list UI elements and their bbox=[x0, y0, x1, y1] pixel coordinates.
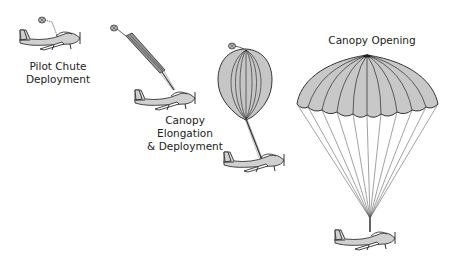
label-canopy-elongation-deployment: Canopy Elongation & Deployment bbox=[140, 114, 230, 153]
stage-pilot-chute bbox=[19, 17, 80, 50]
label-pilot-chute-deployment: Pilot Chute Deployment bbox=[18, 60, 98, 86]
parachute-deployment-diagram: Pilot Chute Deployment Canopy Elongation… bbox=[0, 0, 460, 264]
label-canopy-opening: Canopy Opening bbox=[322, 34, 422, 47]
stage-canopy-elongation bbox=[111, 25, 196, 110]
stage-canopy-opening bbox=[297, 54, 438, 250]
